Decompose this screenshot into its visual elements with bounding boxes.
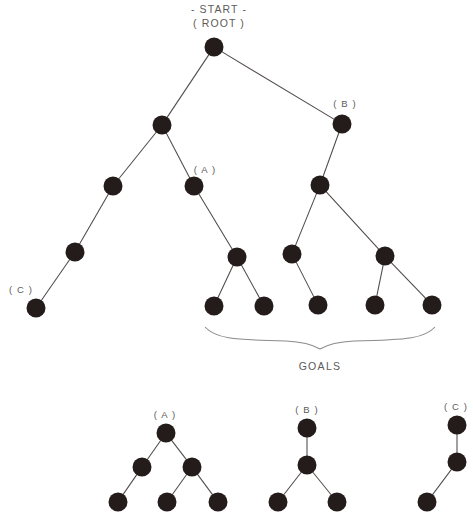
tree-edge-sub1 bbox=[283, 471, 302, 495]
tree-edge-main bbox=[41, 259, 71, 302]
tree-node-main bbox=[309, 296, 328, 315]
tree-node-sub1 bbox=[298, 456, 317, 475]
tree-edge-main bbox=[391, 262, 427, 299]
tree-node-main bbox=[333, 115, 352, 134]
tree-edge-sub0 bbox=[172, 474, 188, 496]
tree-node-sub1 bbox=[298, 419, 317, 438]
tree-node-main bbox=[376, 247, 395, 266]
tree-node-main bbox=[255, 297, 274, 316]
goals-brace-path bbox=[205, 327, 435, 349]
tree-node-main bbox=[366, 296, 385, 315]
tree-node-sub1 bbox=[328, 493, 347, 512]
tree-edge-sub0 bbox=[123, 474, 138, 496]
tree-edge-main bbox=[377, 264, 384, 297]
tree-edge-main bbox=[166, 54, 209, 119]
tree-node-sub2 bbox=[448, 453, 467, 472]
tree-node-sub1 bbox=[269, 493, 288, 512]
edges-layer bbox=[41, 51, 457, 496]
tree-node-main bbox=[153, 116, 172, 135]
tree-node-main bbox=[205, 297, 224, 316]
tree-node-main bbox=[104, 177, 123, 196]
tree-node-main bbox=[66, 243, 85, 262]
tree-edge-main bbox=[79, 193, 109, 245]
tree-edge-main bbox=[323, 132, 340, 178]
tree-edge-main bbox=[325, 191, 379, 250]
tree-node-sub0 bbox=[183, 458, 202, 477]
tree-edge-main bbox=[241, 264, 260, 299]
tree-node-sub0 bbox=[157, 424, 176, 443]
tree-node-sub0 bbox=[158, 493, 177, 512]
goals-brace bbox=[205, 327, 435, 349]
tree-node-sub0 bbox=[133, 458, 152, 477]
search-tree-diagram: - START - ( ROOT ) ( A ) ( B ) ( C ) GOA… bbox=[0, 0, 473, 512]
tree-node-sub2 bbox=[448, 416, 467, 435]
tree-node-main bbox=[205, 38, 224, 57]
tree-node-main bbox=[228, 248, 247, 267]
tree-edge-sub1 bbox=[312, 471, 332, 496]
tree-edge-main bbox=[166, 132, 191, 179]
tree-edge-main bbox=[221, 51, 335, 120]
tree-edge-sub0 bbox=[171, 439, 187, 460]
diagram-canvas bbox=[0, 0, 473, 512]
tree-edge-main bbox=[198, 193, 233, 250]
tree-node-main bbox=[185, 177, 204, 196]
tree-edge-main bbox=[118, 131, 157, 180]
tree-node-sub0 bbox=[109, 493, 128, 512]
tree-node-main bbox=[27, 299, 46, 318]
tree-edge-sub0 bbox=[147, 440, 162, 461]
tree-edge-sub2 bbox=[432, 468, 452, 495]
tree-edge-sub0 bbox=[197, 473, 213, 495]
tree-node-main bbox=[311, 176, 330, 195]
tree-edge-main bbox=[217, 264, 233, 299]
tree-node-main bbox=[423, 296, 442, 315]
tree-edge-main bbox=[295, 192, 317, 246]
tree-node-main bbox=[283, 245, 302, 264]
tree-edge-main bbox=[296, 261, 315, 298]
tree-node-sub0 bbox=[209, 493, 228, 512]
tree-node-sub2 bbox=[418, 493, 437, 512]
